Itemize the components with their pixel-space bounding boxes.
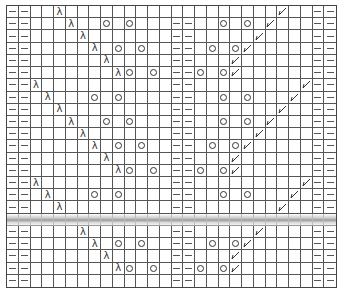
empty-cell	[266, 128, 278, 140]
yarn-over-circle-icon	[125, 67, 137, 79]
empty-cell	[207, 201, 219, 213]
empty-cell	[207, 18, 219, 30]
lambda-decrease-icon	[31, 79, 43, 91]
yarn-over-circle-icon	[242, 116, 254, 128]
empty-cell	[54, 226, 66, 238]
empty-cell	[266, 55, 278, 67]
purl-dash-icon	[313, 92, 325, 104]
empty-cell	[195, 177, 207, 189]
purl-dash-icon	[313, 43, 325, 55]
purl-dash-icon	[7, 177, 19, 189]
empty-cell	[195, 30, 207, 42]
empty-cell	[289, 153, 301, 165]
purl-dash-icon	[19, 153, 31, 165]
empty-cell	[31, 263, 43, 275]
empty-cell	[54, 275, 66, 287]
empty-cell	[42, 55, 54, 67]
empty-cell	[113, 18, 125, 30]
empty-cell	[301, 92, 313, 104]
empty-cell	[266, 201, 278, 213]
empty-cell	[242, 214, 254, 226]
empty-cell	[31, 30, 43, 42]
empty-cell	[230, 226, 242, 238]
empty-cell	[148, 104, 160, 116]
purl-dash-icon	[19, 189, 31, 201]
empty-cell	[101, 128, 113, 140]
right-slant-decrease-icon	[289, 189, 301, 201]
purl-dash-icon	[7, 67, 19, 79]
empty-cell	[266, 140, 278, 152]
empty-cell	[301, 214, 313, 226]
empty-cell	[42, 238, 54, 250]
chart-row	[7, 55, 336, 67]
lambda-decrease-icon	[31, 177, 43, 189]
empty-cell	[242, 67, 254, 79]
purl-dash-icon	[183, 92, 195, 104]
empty-cell	[113, 30, 125, 42]
empty-cell	[301, 67, 313, 79]
empty-cell	[31, 189, 43, 201]
empty-cell	[289, 214, 301, 226]
purl-dash-icon	[172, 263, 184, 275]
purl-dash-icon	[313, 67, 325, 79]
empty-cell	[31, 55, 43, 67]
purl-dash-icon	[313, 79, 325, 91]
empty-cell	[301, 128, 313, 140]
lambda-decrease-icon	[78, 30, 90, 42]
empty-cell	[101, 6, 113, 18]
empty-cell	[219, 201, 231, 213]
yarn-over-circle-icon	[242, 18, 254, 30]
purl-dash-icon	[324, 153, 336, 165]
empty-cell	[89, 214, 101, 226]
empty-cell	[160, 18, 172, 30]
empty-cell	[136, 104, 148, 116]
empty-cell	[125, 128, 137, 140]
empty-cell	[219, 214, 231, 226]
empty-cell	[230, 30, 242, 42]
purl-dash-icon	[172, 30, 184, 42]
purl-dash-icon	[7, 43, 19, 55]
empty-cell	[277, 140, 289, 152]
empty-cell	[254, 43, 266, 55]
purl-dash-icon	[313, 18, 325, 30]
empty-cell	[301, 226, 313, 238]
empty-cell	[89, 250, 101, 262]
empty-cell	[301, 238, 313, 250]
empty-cell	[31, 116, 43, 128]
empty-cell	[89, 201, 101, 213]
empty-cell	[148, 55, 160, 67]
empty-cell	[78, 189, 90, 201]
empty-cell	[277, 30, 289, 42]
empty-cell	[148, 153, 160, 165]
empty-cell	[66, 92, 78, 104]
empty-cell	[148, 275, 160, 287]
empty-cell	[301, 189, 313, 201]
purl-dash-icon	[7, 263, 19, 275]
empty-cell	[54, 92, 66, 104]
empty-cell	[113, 104, 125, 116]
empty-cell	[125, 55, 137, 67]
empty-cell	[230, 92, 242, 104]
purl-dash-icon	[324, 238, 336, 250]
empty-cell	[54, 140, 66, 152]
purl-dash-icon	[19, 177, 31, 189]
empty-cell	[31, 165, 43, 177]
empty-cell	[101, 201, 113, 213]
purl-dash-icon	[183, 30, 195, 42]
purl-dash-icon	[324, 201, 336, 213]
empty-cell	[160, 6, 172, 18]
empty-cell	[160, 104, 172, 116]
purl-dash-icon	[183, 140, 195, 152]
right-slant-decrease-icon	[242, 238, 254, 250]
empty-cell	[160, 177, 172, 189]
empty-cell	[78, 263, 90, 275]
chart-row	[7, 201, 336, 213]
empty-cell	[89, 104, 101, 116]
purl-dash-icon	[313, 189, 325, 201]
empty-cell	[207, 104, 219, 116]
yarn-over-circle-icon	[136, 238, 148, 250]
purl-dash-icon	[7, 18, 19, 30]
empty-cell	[230, 6, 242, 18]
empty-cell	[277, 263, 289, 275]
empty-cell	[101, 226, 113, 238]
